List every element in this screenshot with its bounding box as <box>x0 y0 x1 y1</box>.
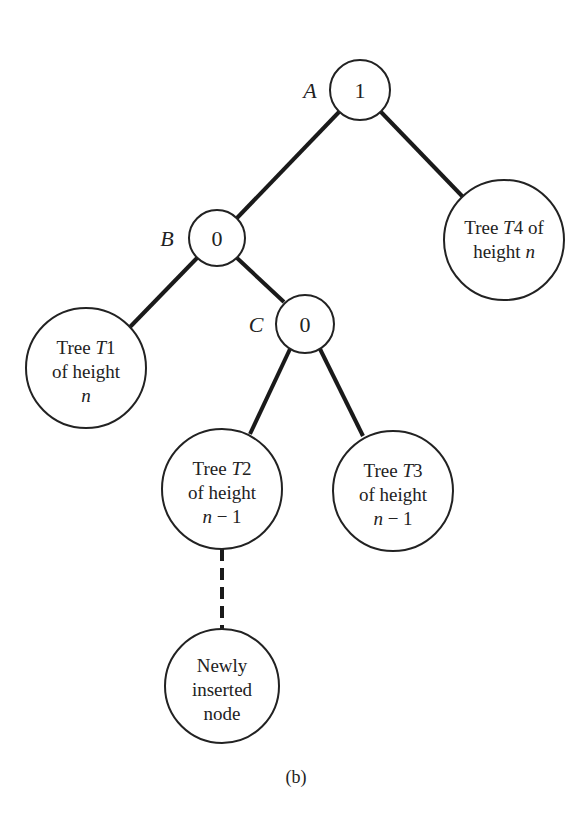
new-node-line3: node <box>204 703 241 724</box>
avl-tree-diagram: 1 A 0 B 0 C Tree T4 of height n Tree T1 … <box>0 0 584 815</box>
edges <box>130 112 463 629</box>
edge-c-t2 <box>250 349 290 434</box>
subtree-t1: Tree T1 of height n <box>26 308 146 428</box>
subtree-t4-circle <box>444 180 564 300</box>
edge-a-b <box>237 112 339 218</box>
subtree-t2-line3: n − 1 <box>202 506 241 527</box>
subtree-t4: Tree T4 of height n <box>444 180 564 300</box>
node-a-balance: 1 <box>355 78 366 103</box>
node-c: 0 C <box>249 295 334 353</box>
subtree-t2-line1: Tree T2 <box>193 458 252 479</box>
node-b: 0 B <box>160 210 245 266</box>
subtree-t2: Tree T2 of height n − 1 <box>162 429 282 549</box>
edge-b-c <box>237 258 284 302</box>
new-node: Newly inserted node <box>165 629 279 743</box>
edge-a-t4 <box>381 112 463 197</box>
node-c-label: C <box>249 312 264 337</box>
node-c-balance: 0 <box>300 312 311 337</box>
subtree-t4-line1: Tree T4 of <box>464 217 544 238</box>
new-node-line1: Newly <box>197 655 248 676</box>
subtree-t2-line2: of height <box>188 482 257 503</box>
node-a-label: A <box>301 78 317 103</box>
new-node-line2: inserted <box>192 679 253 700</box>
subtree-t3-line1: Tree T3 <box>364 460 423 481</box>
subtree-t4-line2: height n <box>473 241 535 262</box>
subtree-t3-line2: of height <box>359 484 428 505</box>
node-b-label: B <box>160 226 173 251</box>
node-a: 1 A <box>301 60 390 120</box>
subtree-t1-line1: Tree T1 <box>57 337 116 358</box>
subtree-t3-line3: n − 1 <box>373 508 412 529</box>
subtree-t1-line3: n <box>81 385 91 406</box>
figure-caption: (b) <box>286 767 307 788</box>
subtree-t1-line2: of height <box>52 361 121 382</box>
subtree-t3: Tree T3 of height n − 1 <box>333 431 453 551</box>
node-b-balance: 0 <box>212 226 223 251</box>
edge-b-t1 <box>130 258 197 327</box>
edge-c-t3 <box>320 349 363 436</box>
